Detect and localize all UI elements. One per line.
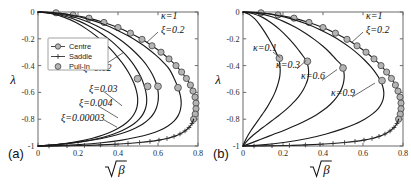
y-tick-label: -0.6 xyxy=(227,88,240,97)
annotation-leader xyxy=(352,83,375,97)
saddle-marker xyxy=(172,134,177,139)
pull-in-marker xyxy=(155,83,162,90)
pull-in-marker xyxy=(379,77,386,84)
centre-marker xyxy=(392,82,398,88)
legend-label: Pull-In xyxy=(69,62,90,71)
pull-in-marker xyxy=(144,83,151,90)
y-tick-label: -0.4 xyxy=(22,62,35,71)
saddle-marker xyxy=(362,138,367,143)
legend-label: Saddle xyxy=(69,52,92,61)
saddle-marker xyxy=(377,134,382,139)
annotation-label: ξ=0.00003 xyxy=(61,112,105,124)
saddle-marker xyxy=(383,132,388,137)
centre-marker xyxy=(371,56,377,62)
series-centre xyxy=(243,12,280,146)
annotation-label: κ=0.3 xyxy=(276,59,300,70)
annotation-leader xyxy=(147,32,158,42)
series-centre xyxy=(243,12,344,146)
saddle-marker xyxy=(303,143,308,148)
y-tick-label: -1 xyxy=(28,142,35,151)
figure-bifurcation-diagram: 00.20.40.60.80-0.2-0.4-0.6-0.8-1βλ(a)κ=1… xyxy=(0,0,411,185)
x-tick-label: 0.2 xyxy=(73,149,83,158)
panel-a-plot: 00.20.40.60.80-0.2-0.4-0.6-0.8-1βλ(a)κ=1… xyxy=(0,0,206,185)
panel-b: 00.20.40.60.80-0.2-0.4-0.6-0.8-1βλ(b)κ=1… xyxy=(205,0,411,185)
centre-marker xyxy=(187,82,193,88)
centre-marker xyxy=(384,69,390,75)
x-axis-label: β xyxy=(105,161,127,177)
curve-path xyxy=(243,12,309,146)
centre-marker xyxy=(166,56,172,62)
panel-tag: (b) xyxy=(213,146,229,161)
centre-marker xyxy=(139,36,145,42)
annotation-label: ξ=0.2 xyxy=(161,24,185,36)
annotation-label: κ=1 xyxy=(161,10,178,21)
annotation-label: ξ=0.004 xyxy=(79,97,113,109)
y-tick-label: -0.4 xyxy=(227,62,240,71)
centre-marker xyxy=(395,88,401,94)
y-tick-label: 0 xyxy=(30,8,34,17)
beta-symbol: β xyxy=(117,162,125,177)
saddle-marker xyxy=(148,139,153,144)
annotation-label: ξ=0.2 xyxy=(366,24,390,36)
centre-marker xyxy=(397,94,403,100)
centre-marker xyxy=(192,94,198,100)
y-tick-label: -0.8 xyxy=(227,115,240,124)
x-tick-label: 0.8 xyxy=(193,149,203,158)
centre-marker xyxy=(332,30,338,36)
centre-marker xyxy=(179,69,185,75)
centre-marker xyxy=(388,75,394,81)
saddle-marker xyxy=(331,141,336,146)
x-tick-label: 0 xyxy=(241,149,245,158)
curve-path xyxy=(38,12,138,146)
annotation-leader xyxy=(104,120,117,127)
legend-circle-marker xyxy=(55,44,60,49)
centre-marker xyxy=(354,43,360,49)
y-axis-label: λ xyxy=(9,72,16,87)
y-tick-label: -0.6 xyxy=(22,88,35,97)
saddle-marker xyxy=(370,136,375,141)
legend-pullin-marker xyxy=(55,64,61,70)
series-saddle xyxy=(243,119,399,148)
beta-symbol: β xyxy=(322,162,330,177)
y-tick-label: -0.2 xyxy=(22,35,35,44)
panel-b-plot: 00.20.40.60.80-0.2-0.4-0.6-0.8-1βλ(b)κ=1… xyxy=(205,0,411,185)
curve-path xyxy=(38,119,194,146)
series-centre xyxy=(243,12,309,146)
x-tick-label: 0.8 xyxy=(398,149,408,158)
x-tick-label: 0.6 xyxy=(358,149,368,158)
annotation-label: κ=0.6 xyxy=(301,70,325,81)
centre-marker xyxy=(173,63,179,69)
saddle-marker xyxy=(287,143,292,148)
panel-tag: (a) xyxy=(8,146,24,161)
annotation-label: κ=0.1 xyxy=(253,42,277,53)
annotation-label: κ=0.9 xyxy=(331,87,355,98)
y-axis-label: λ xyxy=(214,72,221,87)
x-tick-label: 0.4 xyxy=(318,149,328,158)
annotation-label: κ=1 xyxy=(366,10,383,21)
annotation-label: ξ=0.03 xyxy=(89,83,118,95)
curve-path xyxy=(243,12,280,146)
saddle-marker xyxy=(178,132,183,137)
legend: CentreSaddlePull-In xyxy=(48,38,108,71)
panel-a: 00.20.40.60.80-0.2-0.4-0.6-0.8-1βλ(a)κ=1… xyxy=(0,0,206,185)
centre-marker xyxy=(149,43,155,49)
saddle-marker xyxy=(342,140,347,145)
pull-in-marker xyxy=(340,65,347,72)
curve-path xyxy=(243,119,399,146)
x-tick-label: 0.2 xyxy=(278,149,288,158)
y-tick-label: -1 xyxy=(233,142,240,151)
series-centre xyxy=(38,12,181,146)
saddle-marker xyxy=(353,139,358,144)
y-tick-label: -0.8 xyxy=(22,115,35,124)
curve-path xyxy=(243,12,344,146)
saddle-marker xyxy=(165,136,170,141)
saddle-marker xyxy=(157,138,162,143)
centre-marker xyxy=(344,36,350,42)
saddle-marker xyxy=(126,141,131,146)
centre-marker xyxy=(378,63,384,69)
centre-marker xyxy=(363,49,369,55)
series-centre xyxy=(38,12,138,146)
centre-marker xyxy=(158,49,164,55)
x-tick-label: 0 xyxy=(36,149,40,158)
x-axis-label: β xyxy=(310,161,332,177)
